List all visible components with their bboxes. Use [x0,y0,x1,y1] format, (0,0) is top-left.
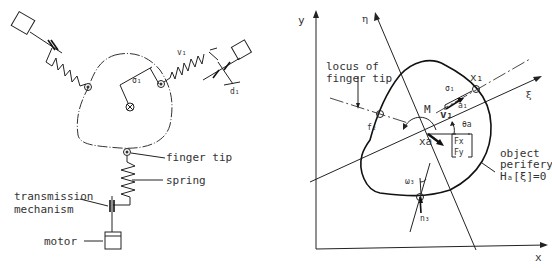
object-label-3: Hₐ[ξ]=0 [500,170,546,183]
theta-a-label: θa [462,120,472,129]
n3-label: n₃ [420,214,430,223]
xi-label: ξ [526,89,532,100]
motor-right [231,40,251,60]
motor-label: motor [44,235,77,248]
v1-left-label: v₁ [177,48,187,57]
force-bracket-right [468,134,472,157]
a1-label: a₁ [458,101,468,110]
Fx-label: Fx [454,137,464,146]
right-coordinate-diagram: y x η ξ locus of finger tip f₂ x₁ σ₁ v₁ … [298,10,552,264]
motor-upper-left [11,12,91,91]
transmission-label-1: transmission [14,190,93,203]
diagram-canvas: σ₁ v₁ d₁ finger tip spring transmission … [0,0,552,268]
eta-label: η [362,13,368,24]
sigma1-left-label: σ₁ [132,76,142,85]
transmission-label-2: mechanism [14,203,74,216]
spring-label: spring [166,174,206,187]
x1-label: x₁ [470,71,483,84]
Fy-label: Fy [454,148,464,157]
x-axis-label: x [535,251,542,264]
v1-right-label: v₁ [440,108,453,121]
locus-line-f2 [330,98,408,123]
sigma1-right-label: σ₁ [445,84,455,93]
y-axis-label: y [298,14,305,27]
d1-label: d₁ [230,87,240,96]
x-axis [316,245,546,249]
object-outline-left [77,53,172,148]
M-label: M [424,103,431,116]
locus-label-2: finger tip [326,72,392,85]
omega3-label: ω₃ [405,177,415,186]
left-mechanism-diagram: σ₁ v₁ d₁ finger tip spring transmission … [11,12,251,249]
motor-bottom [105,232,121,249]
finger-tip-label: finger tip [166,151,232,164]
f2-label: f₂ [367,123,377,132]
